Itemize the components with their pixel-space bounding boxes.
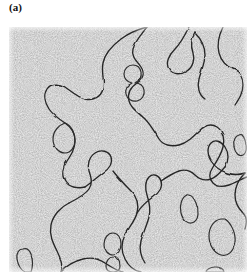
panel-label: (a) — [9, 1, 22, 14]
figure-root: (a) — [0, 0, 251, 277]
noise-layer-coarse — [9, 27, 247, 272]
figure-image-panel — [9, 27, 247, 272]
contour-map-svg — [9, 27, 247, 272]
